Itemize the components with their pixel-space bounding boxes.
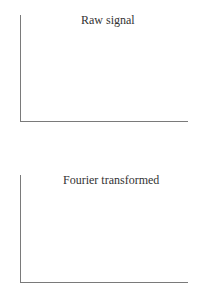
fourier-transformed-y-axis	[20, 175, 21, 283]
fourier-transformed-title: Fourier transformed	[63, 173, 159, 187]
raw-signal-title: Raw signal	[81, 13, 135, 27]
raw-signal-y-axis	[20, 15, 21, 122]
raw-signal-plot: Raw signal	[0, 0, 198, 150]
raw-signal-x-axis	[20, 121, 188, 122]
fourier-transformed-plot: Fourier transformed	[0, 150, 198, 295]
fourier-transformed-x-axis	[20, 282, 188, 283]
